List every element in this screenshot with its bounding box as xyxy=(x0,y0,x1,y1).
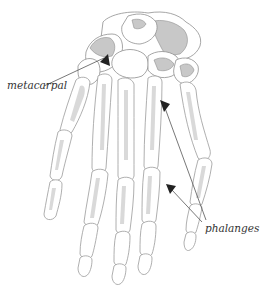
index-finger-phalanges xyxy=(78,169,108,276)
metacarpal-bones xyxy=(60,74,210,182)
carpal-bones xyxy=(78,12,201,84)
hand-skeleton-diagram: .bone { fill: #ffffff; stroke: #9a9a9a; … xyxy=(0,0,278,289)
hand-bones-illustration: .bone { fill: #ffffff; stroke: #9a9a9a; … xyxy=(0,0,278,289)
thumb-phalanges xyxy=(44,130,72,220)
phalanges-label: phalanges xyxy=(205,223,259,234)
metacarpal-label: metacarpal xyxy=(7,80,67,91)
middle-finger-phalanges xyxy=(112,177,134,284)
ring-finger-phalanges xyxy=(138,167,160,274)
